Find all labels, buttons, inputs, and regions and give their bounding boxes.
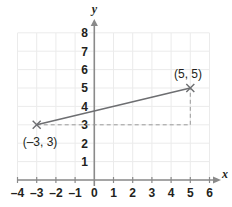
x-tick-label-neg4: –4 [11, 186, 25, 200]
x-tick-label-3: 3 [149, 186, 156, 200]
x-tick-label-1: 1 [110, 186, 117, 200]
x-tick-label-2: 2 [129, 186, 136, 200]
x-tick-label-5: 5 [187, 186, 194, 200]
x-tick-label-neg1: –1 [68, 186, 82, 200]
x-axis-tick-labels: –4 –3 –2 –1 0 1 2 3 4 5 6 [11, 186, 213, 200]
y-tick-label-5: 5 [81, 81, 88, 95]
x-axis-arrowhead [213, 176, 221, 183]
y-axis-tick-labels: 1 2 3 4 5 6 7 8 [81, 26, 88, 169]
x-tick-label-4: 4 [168, 186, 175, 200]
x-tick-label-neg3: –3 [30, 186, 44, 200]
y-tick-label-2: 2 [81, 137, 88, 151]
y-tick-label-1: 1 [81, 155, 88, 169]
y-axis-label: y [90, 2, 98, 16]
y-tick-label-4: 4 [81, 100, 88, 114]
y-tick-label-8: 8 [81, 26, 88, 40]
y-tick-label-7: 7 [81, 45, 88, 59]
point-label-b: (5, 5) [174, 67, 202, 81]
coordinate-plane-svg: –4 –3 –2 –1 0 1 2 3 4 5 6 1 2 3 4 5 6 7 … [0, 0, 232, 207]
x-tick-label-neg2: –2 [49, 186, 63, 200]
y-tick-label-6: 6 [81, 63, 88, 77]
x-axis-label: x [221, 167, 228, 181]
x-tick-label-6: 6 [206, 186, 213, 200]
y-axis-arrowhead [91, 19, 98, 26]
point-label-a: (–3, 3) [23, 135, 58, 149]
x-tick-label-0: 0 [91, 186, 98, 200]
coordinate-plane-figure: –4 –3 –2 –1 0 1 2 3 4 5 6 1 2 3 4 5 6 7 … [0, 0, 232, 207]
